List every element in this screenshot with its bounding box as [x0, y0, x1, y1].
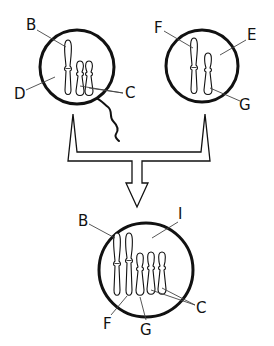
label-d: D — [14, 85, 26, 103]
label-f-egg: F — [154, 19, 163, 37]
egg-cell-membrane — [166, 30, 238, 102]
sperm-chromosome-b — [65, 40, 72, 95]
sperm-tail — [96, 98, 119, 141]
merge-arrow — [68, 114, 210, 207]
zygote-chromosome-c2 — [158, 252, 166, 294]
sperm-chromosome-c2 — [85, 61, 93, 96]
label-g-zygote: G — [140, 321, 152, 339]
label-i: I — [178, 205, 182, 223]
egg-chromosome-f — [191, 38, 198, 94]
zygote-chromosome-c1 — [147, 252, 155, 294]
sperm-cell — [40, 30, 119, 141]
label-c-sperm: C — [125, 84, 135, 102]
zygote-chromosome-f — [126, 233, 133, 295]
label-b-sperm: B — [26, 16, 36, 34]
label-g-egg: G — [239, 96, 251, 114]
zygote-chromosome-g — [136, 253, 144, 295]
sperm-chromosome-c1 — [76, 61, 84, 96]
label-b-zygote: B — [78, 212, 88, 230]
fertilization-diagram: B D C F E G B I F G C — [0, 0, 274, 346]
leader-b-zygote — [89, 224, 115, 238]
zygote-chromosome-b — [114, 233, 121, 295]
label-c-zygote: C — [196, 299, 206, 317]
label-e: E — [247, 26, 256, 44]
label-f-zygote: F — [103, 315, 112, 333]
egg-cell — [166, 30, 238, 102]
